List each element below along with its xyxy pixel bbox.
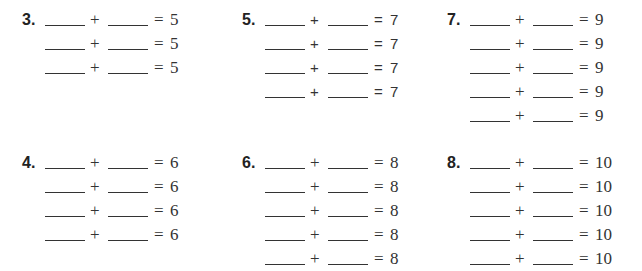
equation-row: + = 8 bbox=[242, 177, 442, 201]
equation-row: + = 10 bbox=[447, 153, 642, 177]
addend-blank-1[interactable] bbox=[265, 73, 305, 74]
addend-blank-2[interactable] bbox=[533, 97, 573, 98]
addend-blank-1[interactable] bbox=[470, 240, 510, 241]
equation-row: + = 5 bbox=[22, 58, 222, 82]
addend-blank-1[interactable] bbox=[470, 49, 510, 50]
equals-sign: = bbox=[154, 10, 164, 30]
addend-blank-2[interactable] bbox=[533, 216, 573, 217]
plus-sign: + bbox=[515, 106, 525, 126]
equation-row: + = 9 bbox=[447, 34, 642, 58]
equals-sign: = bbox=[579, 82, 589, 102]
addend-blank-2[interactable] bbox=[108, 216, 148, 217]
addend-blank-2[interactable] bbox=[533, 25, 573, 26]
plus-sign: + bbox=[310, 153, 320, 173]
addend-blank-1[interactable] bbox=[470, 192, 510, 193]
sum-value: 8 bbox=[390, 249, 399, 269]
addend-blank-2[interactable] bbox=[328, 97, 368, 98]
equation-row: + = 10 bbox=[447, 249, 642, 271]
plus-sign: + bbox=[515, 34, 525, 54]
addend-blank-2[interactable] bbox=[328, 25, 368, 26]
equals-sign: = bbox=[374, 177, 384, 197]
sum-value: 9 bbox=[595, 34, 604, 54]
addend-blank-2[interactable] bbox=[533, 49, 573, 50]
addend-blank-2[interactable] bbox=[533, 168, 573, 169]
addend-blank-1[interactable] bbox=[265, 97, 305, 98]
addend-blank-1[interactable] bbox=[45, 192, 85, 193]
plus-sign: + bbox=[515, 153, 525, 173]
sum-value: 10 bbox=[595, 249, 612, 269]
addend-blank-1[interactable] bbox=[470, 168, 510, 169]
addend-blank-1[interactable] bbox=[45, 73, 85, 74]
addend-blank-1[interactable] bbox=[265, 168, 305, 169]
addend-blank-2[interactable] bbox=[328, 264, 368, 265]
equation-row: + = 6 bbox=[22, 225, 222, 249]
equation-row: + = 7 bbox=[242, 58, 442, 82]
plus-sign: + bbox=[310, 82, 319, 102]
addend-blank-2[interactable] bbox=[328, 73, 368, 74]
addend-blank-2[interactable] bbox=[328, 168, 368, 169]
addend-blank-1[interactable] bbox=[470, 25, 510, 26]
addend-blank-1[interactable] bbox=[45, 168, 85, 169]
sum-value: 10 bbox=[595, 225, 612, 245]
addend-blank-2[interactable] bbox=[108, 240, 148, 241]
addend-blank-1[interactable] bbox=[45, 49, 85, 50]
addend-blank-1[interactable] bbox=[265, 25, 305, 26]
addend-blank-2[interactable] bbox=[533, 264, 573, 265]
plus-sign: + bbox=[310, 58, 319, 78]
equals-sign: = bbox=[154, 58, 164, 78]
addend-blank-1[interactable] bbox=[470, 73, 510, 74]
plus-sign: + bbox=[515, 58, 525, 78]
equals-sign: = bbox=[374, 201, 384, 221]
equation-row: + = 5 bbox=[22, 10, 222, 34]
addend-blank-2[interactable] bbox=[108, 49, 148, 50]
problem-4: 4. + = 6 + = 6 + = 6 + = 6 bbox=[22, 153, 222, 249]
addend-blank-1[interactable] bbox=[45, 216, 85, 217]
plus-sign: + bbox=[90, 201, 100, 221]
addend-blank-2[interactable] bbox=[328, 216, 368, 217]
addend-blank-2[interactable] bbox=[533, 73, 573, 74]
addend-blank-1[interactable] bbox=[470, 97, 510, 98]
equals-sign: = bbox=[374, 225, 384, 245]
addend-blank-1[interactable] bbox=[265, 264, 305, 265]
plus-sign: + bbox=[90, 10, 100, 30]
addend-blank-1[interactable] bbox=[45, 25, 85, 26]
addend-blank-1[interactable] bbox=[45, 240, 85, 241]
plus-sign: + bbox=[515, 249, 525, 269]
equation-row: + = 8 bbox=[242, 249, 442, 271]
addend-blank-1[interactable] bbox=[265, 216, 305, 217]
addend-blank-2[interactable] bbox=[533, 240, 573, 241]
addend-blank-2[interactable] bbox=[108, 192, 148, 193]
addend-blank-1[interactable] bbox=[470, 264, 510, 265]
equals-sign: = bbox=[579, 106, 589, 126]
addend-blank-1[interactable] bbox=[470, 121, 510, 122]
equals-sign: = bbox=[579, 249, 589, 269]
sum-value: 5 bbox=[170, 58, 179, 78]
plus-sign: + bbox=[90, 153, 100, 173]
addend-blank-2[interactable] bbox=[108, 25, 148, 26]
addend-blank-1[interactable] bbox=[265, 192, 305, 193]
sum-value: 6 bbox=[170, 201, 179, 221]
addend-blank-1[interactable] bbox=[265, 49, 305, 50]
addend-blank-2[interactable] bbox=[533, 121, 573, 122]
addend-blank-1[interactable] bbox=[265, 240, 305, 241]
sum-value: 6 bbox=[170, 177, 179, 197]
addend-blank-1[interactable] bbox=[470, 216, 510, 217]
plus-sign: + bbox=[515, 82, 525, 102]
sum-value: 5 bbox=[170, 34, 179, 54]
addend-blank-2[interactable] bbox=[108, 73, 148, 74]
plus-sign: + bbox=[310, 201, 320, 221]
addend-blank-2[interactable] bbox=[108, 168, 148, 169]
plus-sign: + bbox=[515, 10, 525, 30]
plus-sign: + bbox=[310, 177, 320, 197]
addend-blank-2[interactable] bbox=[328, 49, 368, 50]
equals-sign: = bbox=[579, 201, 589, 221]
plus-sign: + bbox=[90, 177, 100, 197]
addend-blank-2[interactable] bbox=[328, 192, 368, 193]
plus-sign: + bbox=[310, 225, 320, 245]
plus-sign: + bbox=[310, 34, 319, 54]
addend-blank-2[interactable] bbox=[533, 192, 573, 193]
equals-sign: = bbox=[579, 34, 589, 54]
sum-value: 8 bbox=[390, 177, 399, 197]
addend-blank-2[interactable] bbox=[328, 240, 368, 241]
problem-5: 5. + = 7 + = 7 + = 7 + = 7 bbox=[242, 10, 442, 106]
